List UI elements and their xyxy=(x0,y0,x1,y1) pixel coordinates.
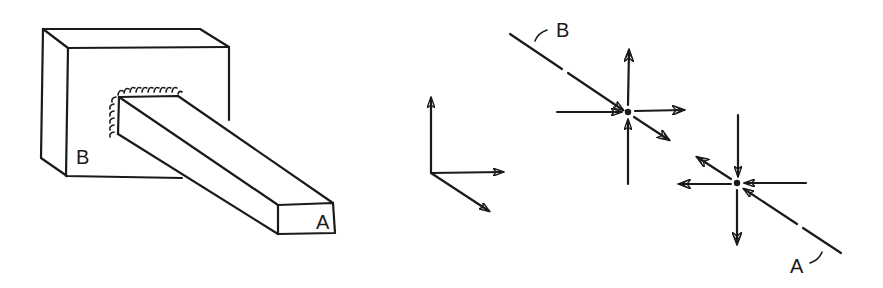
label-wall-b: B xyxy=(76,146,89,168)
label-free-end-a: A xyxy=(316,211,330,233)
beam-axis-upper: B xyxy=(510,19,623,110)
axes-triad xyxy=(431,98,503,211)
label-line-a: A xyxy=(790,255,804,277)
axis-horizontal-arrow xyxy=(431,172,503,173)
fixed-support-hatching xyxy=(110,88,182,138)
label-line-b: B xyxy=(556,19,569,41)
beam-axis-lower: A xyxy=(744,189,841,277)
vector-up-double xyxy=(628,50,629,105)
cantilever-beam xyxy=(118,96,335,234)
upper-node-point xyxy=(625,109,631,115)
vector-oblique-double xyxy=(634,117,669,140)
vector-right-double xyxy=(635,110,684,111)
lower-node-point xyxy=(734,180,740,186)
axis-oblique-arrow xyxy=(431,173,489,211)
lower-node-vectors xyxy=(679,115,806,244)
vector-oblique-double-lower xyxy=(697,157,731,179)
support-block xyxy=(41,29,229,178)
upper-node-vectors xyxy=(557,50,684,184)
diagram-canvas: B A B A xyxy=(0,0,883,288)
